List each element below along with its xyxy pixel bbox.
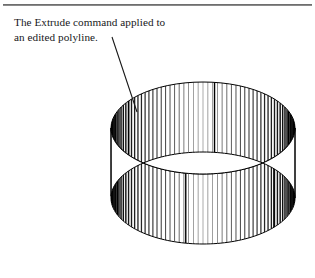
leader-line: [112, 37, 137, 112]
extruded-polyline-svg: [0, 0, 315, 278]
figure-illustration: [0, 0, 315, 278]
figure-page: The Extrude command applied to an edited…: [0, 0, 315, 278]
